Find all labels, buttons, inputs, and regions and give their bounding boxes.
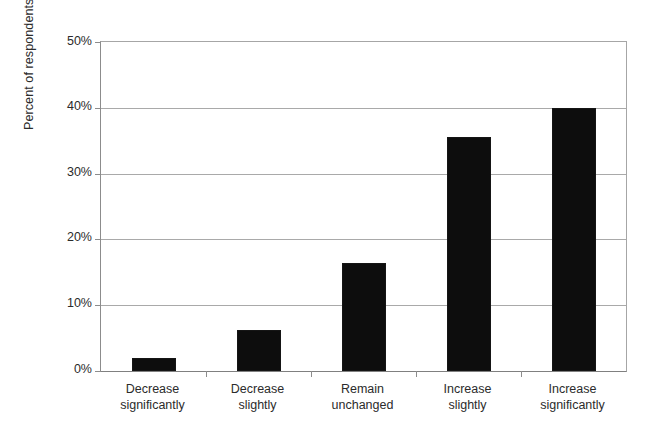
bar-increase-slightly[interactable] bbox=[447, 137, 491, 371]
x-label-increase-slightly: Increase slightly bbox=[415, 382, 520, 413]
x-tick-mark-3 bbox=[416, 371, 417, 377]
y-tick-mark-10 bbox=[95, 305, 101, 306]
bar-chart: Percent of respondents 50% 40% 30% 20% 1… bbox=[0, 0, 658, 444]
y-tick-label-50: 50% bbox=[32, 34, 92, 48]
x-label-remain-unchanged: Remain unchanged bbox=[310, 382, 415, 413]
y-tick-label-30: 30% bbox=[32, 165, 92, 179]
x-tick-mark-4 bbox=[521, 371, 522, 377]
bar-decrease-significantly[interactable] bbox=[132, 358, 176, 371]
y-tick-label-10: 10% bbox=[32, 296, 92, 310]
y-tick-mark-50 bbox=[95, 42, 101, 43]
x-label-increase-significantly: Increase significantly bbox=[520, 382, 625, 413]
y-tick-mark-30 bbox=[95, 174, 101, 175]
x-label-decrease-significantly: Decrease significantly bbox=[100, 382, 205, 413]
y-tick-mark-40 bbox=[95, 108, 101, 109]
bar-increase-significantly[interactable] bbox=[552, 108, 596, 371]
y-tick-mark-20 bbox=[95, 239, 101, 240]
gridline-30 bbox=[101, 174, 626, 175]
y-tick-mark-0 bbox=[95, 371, 101, 372]
x-tick-mark-2 bbox=[311, 371, 312, 377]
y-tick-label-20: 20% bbox=[32, 230, 92, 244]
y-tick-label-0: 0% bbox=[32, 362, 92, 376]
y-tick-label-40: 40% bbox=[32, 99, 92, 113]
x-tick-mark-1 bbox=[206, 371, 207, 377]
bar-remain-unchanged[interactable] bbox=[342, 263, 386, 371]
gridline-40 bbox=[101, 108, 626, 109]
bar-decrease-slightly[interactable] bbox=[237, 330, 281, 371]
gridline-20 bbox=[101, 239, 626, 240]
plot-area bbox=[100, 41, 627, 372]
x-label-decrease-slightly: Decrease slightly bbox=[205, 382, 310, 413]
